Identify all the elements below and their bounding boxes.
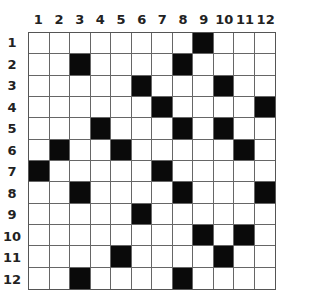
white-cell[interactable] xyxy=(91,161,112,182)
white-cell[interactable] xyxy=(70,225,91,246)
white-cell[interactable] xyxy=(132,118,153,139)
white-cell[interactable] xyxy=(193,76,214,97)
white-cell[interactable] xyxy=(152,204,173,225)
white-cell[interactable] xyxy=(29,33,50,54)
white-cell[interactable] xyxy=(193,204,214,225)
white-cell[interactable] xyxy=(29,182,50,203)
white-cell[interactable] xyxy=(132,54,153,75)
white-cell[interactable] xyxy=(111,76,132,97)
white-cell[interactable] xyxy=(173,76,194,97)
white-cell[interactable] xyxy=(111,204,132,225)
white-cell[interactable] xyxy=(214,140,235,161)
white-cell[interactable] xyxy=(111,225,132,246)
white-cell[interactable] xyxy=(173,161,194,182)
white-cell[interactable] xyxy=(152,140,173,161)
white-cell[interactable] xyxy=(70,246,91,267)
white-cell[interactable] xyxy=(111,54,132,75)
white-cell[interactable] xyxy=(255,33,276,54)
white-cell[interactable] xyxy=(50,182,71,203)
white-cell[interactable] xyxy=(255,204,276,225)
white-cell[interactable] xyxy=(50,54,71,75)
white-cell[interactable] xyxy=(70,118,91,139)
white-cell[interactable] xyxy=(132,140,153,161)
white-cell[interactable] xyxy=(193,140,214,161)
white-cell[interactable] xyxy=(91,182,112,203)
white-cell[interactable] xyxy=(255,225,276,246)
white-cell[interactable] xyxy=(234,161,255,182)
white-cell[interactable] xyxy=(29,204,50,225)
white-cell[interactable] xyxy=(91,268,112,289)
white-cell[interactable] xyxy=(91,97,112,118)
white-cell[interactable] xyxy=(132,33,153,54)
white-cell[interactable] xyxy=(193,182,214,203)
white-cell[interactable] xyxy=(214,54,235,75)
white-cell[interactable] xyxy=(111,33,132,54)
white-cell[interactable] xyxy=(132,161,153,182)
white-cell[interactable] xyxy=(214,161,235,182)
white-cell[interactable] xyxy=(173,97,194,118)
white-cell[interactable] xyxy=(152,182,173,203)
white-cell[interactable] xyxy=(152,246,173,267)
white-cell[interactable] xyxy=(214,182,235,203)
white-cell[interactable] xyxy=(214,33,235,54)
white-cell[interactable] xyxy=(173,246,194,267)
white-cell[interactable] xyxy=(29,118,50,139)
white-cell[interactable] xyxy=(50,204,71,225)
white-cell[interactable] xyxy=(111,118,132,139)
white-cell[interactable] xyxy=(255,118,276,139)
white-cell[interactable] xyxy=(91,76,112,97)
white-cell[interactable] xyxy=(193,118,214,139)
white-cell[interactable] xyxy=(132,97,153,118)
white-cell[interactable] xyxy=(234,204,255,225)
white-cell[interactable] xyxy=(50,118,71,139)
white-cell[interactable] xyxy=(234,33,255,54)
white-cell[interactable] xyxy=(29,54,50,75)
white-cell[interactable] xyxy=(255,161,276,182)
white-cell[interactable] xyxy=(234,54,255,75)
white-cell[interactable] xyxy=(91,54,112,75)
white-cell[interactable] xyxy=(173,225,194,246)
white-cell[interactable] xyxy=(152,118,173,139)
white-cell[interactable] xyxy=(193,268,214,289)
white-cell[interactable] xyxy=(70,140,91,161)
white-cell[interactable] xyxy=(173,33,194,54)
white-cell[interactable] xyxy=(29,76,50,97)
white-cell[interactable] xyxy=(255,246,276,267)
white-cell[interactable] xyxy=(173,204,194,225)
white-cell[interactable] xyxy=(234,182,255,203)
white-cell[interactable] xyxy=(255,76,276,97)
white-cell[interactable] xyxy=(152,76,173,97)
white-cell[interactable] xyxy=(70,161,91,182)
white-cell[interactable] xyxy=(29,268,50,289)
white-cell[interactable] xyxy=(152,54,173,75)
white-cell[interactable] xyxy=(50,97,71,118)
white-cell[interactable] xyxy=(91,204,112,225)
white-cell[interactable] xyxy=(234,97,255,118)
white-cell[interactable] xyxy=(193,97,214,118)
white-cell[interactable] xyxy=(152,33,173,54)
white-cell[interactable] xyxy=(111,161,132,182)
white-cell[interactable] xyxy=(152,225,173,246)
white-cell[interactable] xyxy=(193,246,214,267)
white-cell[interactable] xyxy=(132,246,153,267)
white-cell[interactable] xyxy=(132,182,153,203)
white-cell[interactable] xyxy=(29,97,50,118)
white-cell[interactable] xyxy=(50,33,71,54)
white-cell[interactable] xyxy=(91,225,112,246)
white-cell[interactable] xyxy=(255,268,276,289)
white-cell[interactable] xyxy=(91,33,112,54)
white-cell[interactable] xyxy=(91,140,112,161)
white-cell[interactable] xyxy=(91,246,112,267)
white-cell[interactable] xyxy=(255,140,276,161)
white-cell[interactable] xyxy=(70,204,91,225)
white-cell[interactable] xyxy=(173,140,194,161)
white-cell[interactable] xyxy=(234,268,255,289)
white-cell[interactable] xyxy=(29,140,50,161)
white-cell[interactable] xyxy=(70,76,91,97)
white-cell[interactable] xyxy=(132,268,153,289)
white-cell[interactable] xyxy=(50,268,71,289)
white-cell[interactable] xyxy=(29,246,50,267)
white-cell[interactable] xyxy=(214,268,235,289)
white-cell[interactable] xyxy=(214,225,235,246)
white-cell[interactable] xyxy=(111,182,132,203)
